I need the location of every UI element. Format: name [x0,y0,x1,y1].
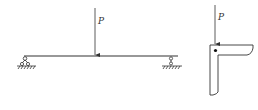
section-load-label: P [217,12,225,22]
left-support-icon [17,57,36,69]
angle-cross-section: P [210,5,253,95]
right-support-icon [162,57,182,69]
beam-load-arrow: P [95,8,105,55]
simply-supported-beam: P [17,8,182,69]
diagram: P [0,0,258,110]
load-point-dot [214,49,217,52]
angle-section-outline [210,45,253,95]
section-load-arrow: P [215,5,225,44]
beam-load-label: P [97,16,105,26]
